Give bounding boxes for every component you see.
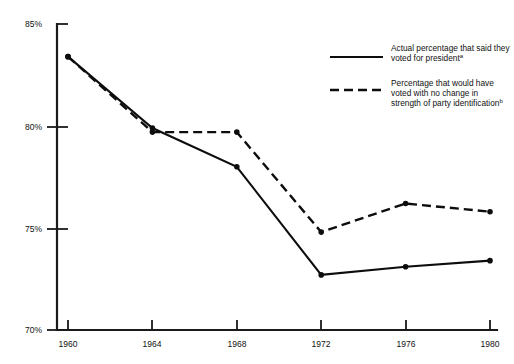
y-axis: 85% 80% 75% 70%	[25, 19, 68, 335]
data-point	[65, 54, 71, 60]
legend-entry-1-line-2: voted with no change in	[391, 88, 479, 98]
y-tick-label-70: 70%	[25, 325, 42, 335]
x-tick-label-1972: 1972	[312, 339, 331, 349]
legend-entry-1-line-1: Percentage that would have	[391, 78, 494, 88]
data-point	[487, 258, 493, 264]
data-point	[487, 209, 493, 215]
y-tick-label-75: 75%	[25, 224, 42, 234]
data-point	[318, 272, 324, 278]
x-tick-label-1964: 1964	[143, 339, 162, 349]
legend-entry-1-superscript: b	[499, 98, 503, 104]
chart-svg: 85% 80% 75% 70% 1960 1964 1968 1972 1976…	[0, 0, 514, 364]
legend-entry-1-line-3: strength of party identificationb	[391, 98, 503, 108]
x-tick-label-1968: 1968	[228, 339, 247, 349]
legend-entry-0-line-2-text: voted for president	[391, 53, 460, 63]
data-point	[403, 201, 409, 207]
x-tick-label-1980: 1980	[481, 339, 500, 349]
legend-entry-1-line-3-text: strength of party identification	[391, 98, 500, 108]
legend-entry-0-line-1: Actual percentage that said they	[391, 43, 510, 53]
legend: Actual percentage that said they voted f…	[330, 43, 510, 108]
data-point	[234, 164, 240, 170]
y-tick-label-80: 80%	[25, 122, 42, 132]
data-point	[403, 264, 409, 270]
data-point	[150, 125, 156, 131]
data-point	[234, 129, 240, 135]
legend-entry-0-superscript: a	[460, 53, 464, 59]
x-axis: 1960 1964 1968 1972 1976 1980	[57, 320, 500, 349]
legend-entry-0-line-2: voted for presidenta	[391, 53, 464, 63]
y-tick-label-85: 85%	[25, 19, 42, 29]
line-chart: 85% 80% 75% 70% 1960 1964 1968 1972 1976…	[0, 0, 514, 364]
data-point	[318, 229, 324, 235]
x-tick-label-1976: 1976	[397, 339, 416, 349]
x-tick-label-1960: 1960	[59, 339, 78, 349]
